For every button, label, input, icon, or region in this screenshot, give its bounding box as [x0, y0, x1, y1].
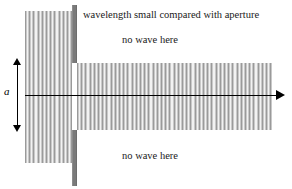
label-no-wave-top: no wave here	[122, 34, 178, 45]
barrier-upper-segment	[72, 5, 77, 63]
aperture-dimension-arrow	[11, 58, 25, 132]
optical-axis-line	[25, 95, 281, 96]
dimension-shaft	[17, 62, 18, 128]
barrier-lower-segment	[72, 130, 77, 186]
incident-wavefield	[25, 11, 72, 163]
aperture-size-label: a	[4, 86, 10, 97]
optical-axis-arrowhead-icon	[276, 90, 285, 100]
caption-wavelength-condition: wavelength small compared with aperture	[83, 9, 259, 20]
diffraction-diagram: a wavelength small compared with apertur…	[0, 0, 292, 189]
label-no-wave-bottom: no wave here	[122, 150, 178, 161]
arrow-down-icon	[13, 125, 21, 132]
transmitted-wavefield	[77, 63, 272, 130]
